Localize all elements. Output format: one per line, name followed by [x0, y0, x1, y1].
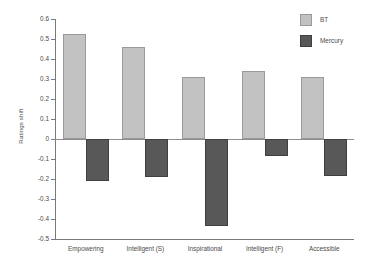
y-axis-title: Ratings shift: [17, 36, 24, 96]
x-axis-label-intelligent-s-: Intelligent (S): [127, 246, 165, 252]
bar-bt-inspirational: [182, 77, 205, 139]
bar-group: [235, 19, 295, 239]
legend-label-bt: BT: [320, 17, 328, 23]
legend-swatch-mercury: [300, 35, 312, 47]
legend: BTMercury: [294, 13, 368, 53]
bar-mercury-inspirational: [205, 139, 228, 226]
x-axis-label-empowering: Empowering: [68, 246, 104, 252]
y-axis-tick-label: -0.4: [38, 216, 49, 222]
y-axis-tick-label: 0.5: [40, 36, 49, 42]
bar-bt-empowering: [63, 34, 86, 139]
y-axis-tick-label: -0.5: [38, 236, 49, 242]
y-axis-title-text: Ratings shift: [17, 96, 24, 156]
bar-bt-accessible: [301, 77, 324, 139]
y-axis-tick-label: 0.1: [40, 116, 49, 122]
bar-bt-intelligent-f-: [242, 71, 265, 139]
legend-item-mercury[interactable]: Mercury: [294, 34, 368, 48]
legend-swatch-bt: [300, 14, 312, 26]
y-axis-tick-label: -0.3: [38, 196, 49, 202]
bar-mercury-accessible: [324, 139, 347, 176]
y-axis-tick-labels: 0.60.50.40.30.20.10-0.1-0.2-0.3-0.4-0.5: [24, 0, 49, 279]
bar-mercury-empowering: [86, 139, 109, 181]
bar-chart: Ratings shift 0.60.50.40.30.20.10-0.1-0.…: [0, 0, 372, 279]
y-axis-tick-label: -0.2: [38, 176, 49, 182]
bar-group: [175, 19, 235, 239]
bar-group: [116, 19, 176, 239]
x-axis-label-accessible: Accessible: [309, 246, 340, 252]
y-axis-tick-label: 0.3: [40, 76, 49, 82]
x-axis-line: [55, 239, 354, 240]
legend-item-bt[interactable]: BT: [294, 13, 368, 27]
bar-bt-intelligent-s-: [122, 47, 145, 139]
bar-mercury-intelligent-s-: [145, 139, 168, 177]
x-axis-category-labels: EmpoweringIntelligent (S)InspirationalIn…: [56, 246, 354, 262]
y-axis-tick-label: 0: [45, 136, 49, 142]
y-axis-tick-label: 0.4: [40, 56, 49, 62]
y-axis-tick-label: 0.6: [40, 16, 49, 22]
bar-mercury-intelligent-f-: [265, 139, 288, 156]
y-axis-tick-label: -0.1: [38, 156, 49, 162]
legend-label-mercury: Mercury: [320, 38, 343, 44]
bar-group: [56, 19, 116, 239]
x-axis-label-inspirational: Inspirational: [188, 246, 222, 252]
x-axis-label-intelligent-f-: Intelligent (F): [246, 246, 283, 252]
y-axis-tick-label: 0.2: [40, 96, 49, 102]
